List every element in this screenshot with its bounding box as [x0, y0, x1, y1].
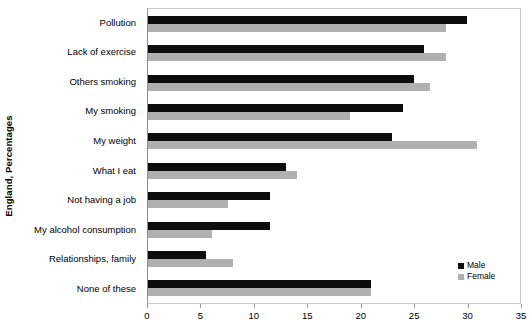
- bar-female: [148, 171, 297, 179]
- category-label: Relationships, family: [18, 245, 142, 275]
- x-tick-mark: [414, 304, 415, 308]
- bar-group: [148, 156, 520, 185]
- category-label: My alcohol consumption: [18, 215, 142, 245]
- x-tick-mark: [307, 304, 308, 308]
- bar-group: [148, 9, 520, 38]
- bar-group: [148, 185, 520, 214]
- legend-item-label: Female: [467, 271, 495, 282]
- category-axis-labels: PollutionLack of exerciseOthers smokingM…: [18, 8, 142, 304]
- y-axis-title: England, Percentages: [0, 0, 16, 332]
- bar-group: [148, 68, 520, 97]
- legend-item-female[interactable]: Female: [458, 271, 518, 282]
- legend-swatch-icon: [458, 274, 464, 280]
- bar-male: [148, 45, 424, 53]
- bar-female: [148, 112, 350, 120]
- x-tick-label: 0: [144, 310, 149, 321]
- x-tick-label: 20: [355, 310, 366, 321]
- category-label: Not having a job: [18, 186, 142, 216]
- bar-female: [148, 288, 371, 296]
- x-tick-label: 35: [516, 310, 527, 321]
- x-tick-mark: [147, 304, 148, 308]
- y-axis-title-label: England, Percentages: [3, 115, 14, 216]
- x-tick-label: 25: [409, 310, 420, 321]
- bar-female: [148, 200, 228, 208]
- category-label: Lack of exercise: [18, 38, 142, 68]
- x-tick-mark: [254, 304, 255, 308]
- bar-group: [148, 97, 520, 126]
- bar-male: [148, 222, 270, 230]
- bar-female: [148, 141, 477, 149]
- bar-male: [148, 104, 403, 112]
- x-tick-mark: [468, 304, 469, 308]
- category-label: What I eat: [18, 156, 142, 186]
- legend-item-label: Male: [467, 260, 485, 271]
- x-tick-label: 30: [462, 310, 473, 321]
- category-label: My weight: [18, 126, 142, 156]
- x-tick-label: 15: [302, 310, 313, 321]
- x-axis: 05101520253035: [147, 304, 521, 332]
- bars-layer: [148, 9, 520, 303]
- bar-male: [148, 192, 270, 200]
- x-tick-label: 5: [198, 310, 203, 321]
- bar-female: [148, 83, 430, 91]
- bar-chart: England, Percentages PollutionLack of ex…: [0, 0, 529, 332]
- bar-male: [148, 75, 414, 83]
- chart-legend: MaleFemale: [458, 260, 518, 282]
- category-label: Pollution: [18, 8, 142, 38]
- bar-female: [148, 230, 212, 238]
- x-tick-label: 10: [249, 310, 260, 321]
- legend-item-male[interactable]: Male: [458, 260, 518, 271]
- bar-group: [148, 38, 520, 67]
- bar-male: [148, 163, 286, 171]
- x-tick-mark: [521, 304, 522, 308]
- bar-male: [148, 16, 467, 24]
- category-label: Others smoking: [18, 67, 142, 97]
- bar-female: [148, 259, 233, 267]
- bar-group: [148, 215, 520, 244]
- bar-female: [148, 53, 446, 61]
- bar-male: [148, 251, 206, 259]
- legend-swatch-icon: [458, 263, 464, 269]
- bar-female: [148, 24, 446, 32]
- bar-male: [148, 280, 371, 288]
- bar-group: [148, 127, 520, 156]
- x-tick-mark: [200, 304, 201, 308]
- category-label: None of these: [18, 274, 142, 304]
- x-tick-mark: [361, 304, 362, 308]
- category-label: My smoking: [18, 97, 142, 127]
- bar-male: [148, 133, 392, 141]
